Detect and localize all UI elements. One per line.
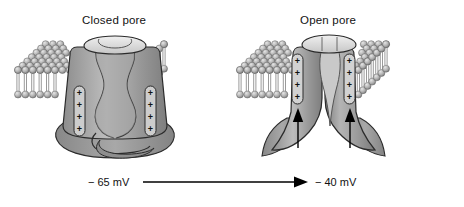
panel-open: + + + + + + + + (237, 35, 390, 156)
lipid-front-face-closed (15, 67, 59, 99)
pore-mouth-open (302, 35, 356, 53)
svg-text:+: + (77, 124, 82, 134)
voltage-sensor-left-closed: + + + + (74, 86, 85, 136)
voltage-sensor-right-open: + + + + (344, 54, 355, 104)
svg-text:+: + (148, 112, 153, 122)
pore-mouth-closed (84, 36, 146, 54)
figure-canvas: Closed pore Open pore (0, 0, 464, 207)
svg-text:+: + (77, 112, 82, 122)
svg-text:+: + (295, 80, 300, 90)
svg-text:+: + (77, 88, 82, 98)
voltage-label-start: − 65 mV (88, 176, 129, 188)
lipid-front-face-open (237, 67, 288, 99)
svg-text:+: + (295, 56, 300, 66)
voltage-label-end: − 40 mV (315, 176, 356, 188)
svg-text:+: + (295, 68, 300, 78)
svg-text:+: + (148, 88, 153, 98)
svg-text:+: + (347, 80, 352, 90)
voltage-sensor-left-open: + + + + (292, 54, 303, 104)
svg-text:+: + (347, 68, 352, 78)
svg-text:+: + (148, 124, 153, 134)
panel-closed: + + + + + + + + (15, 36, 175, 158)
channel-diagram: + + + + + + + + (0, 0, 464, 207)
svg-text:+: + (347, 92, 352, 102)
svg-text:+: + (148, 100, 153, 110)
channel-protein-closed: + + + + + + + + (56, 36, 175, 158)
svg-text:+: + (347, 56, 352, 66)
voltage-sensor-right-closed: + + + + (145, 86, 156, 136)
voltage-transition-arrow (143, 177, 308, 188)
svg-text:+: + (295, 92, 300, 102)
svg-text:+: + (77, 100, 82, 110)
